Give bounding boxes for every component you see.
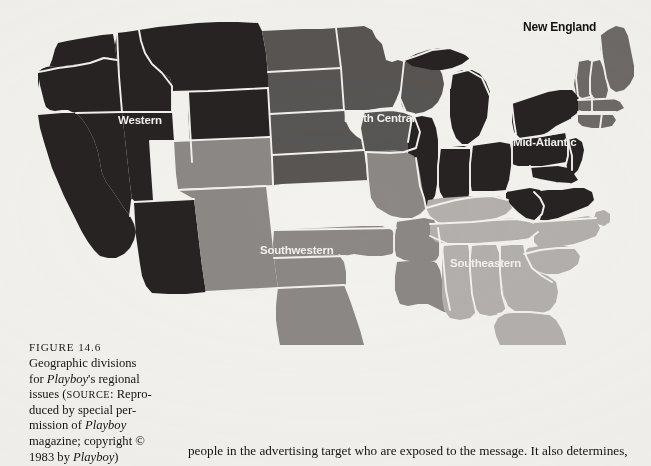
caption-line-5: mission of Playboy — [29, 418, 181, 434]
state-texas — [276, 285, 364, 345]
state-connecticut-rhode-island — [578, 113, 616, 128]
state-arizona — [134, 199, 206, 294]
caption-line-1: Geographic divisions — [29, 356, 181, 372]
figure-caption-body: Geographic divisions for Playboy's regio… — [29, 356, 181, 465]
state-oklahoma — [273, 226, 396, 258]
state-pennsylvania — [510, 132, 568, 166]
caption-line-2: for Playboy's regional — [29, 372, 181, 388]
state-south-dakota — [268, 68, 344, 114]
state-north-dakota — [262, 28, 341, 72]
caption-line-3: issues (SOURCE: Repro- — [29, 387, 181, 403]
state-ohio — [470, 142, 512, 192]
caption-line-6: magazine; copyright © — [29, 434, 181, 450]
body-text-line: people in the advertising target who are… — [188, 443, 640, 459]
state-colorado — [174, 137, 274, 189]
state-texas-panhandle — [274, 254, 346, 288]
caption-line-7: 1983 by Playboy) — [29, 450, 181, 466]
figure-number-label: FIGURE 14.6 — [29, 341, 181, 353]
caption-line-4: duced by special per- — [29, 403, 181, 419]
state-nebraska — [270, 110, 364, 155]
state-indiana — [438, 146, 470, 199]
state-minnesota — [336, 26, 406, 110]
state-florida — [494, 312, 566, 345]
state-kansas — [272, 150, 368, 185]
figure-map-us-regions: Western North Central Mid-Atlantic New E… — [0, 0, 651, 345]
state-new-york — [512, 90, 580, 138]
us-regions-map-svg — [0, 0, 651, 345]
book-page: Western North Central Mid-Atlantic New E… — [0, 0, 651, 466]
figure-caption: FIGURE 14.6 Geographic divisions for Pla… — [29, 341, 181, 465]
